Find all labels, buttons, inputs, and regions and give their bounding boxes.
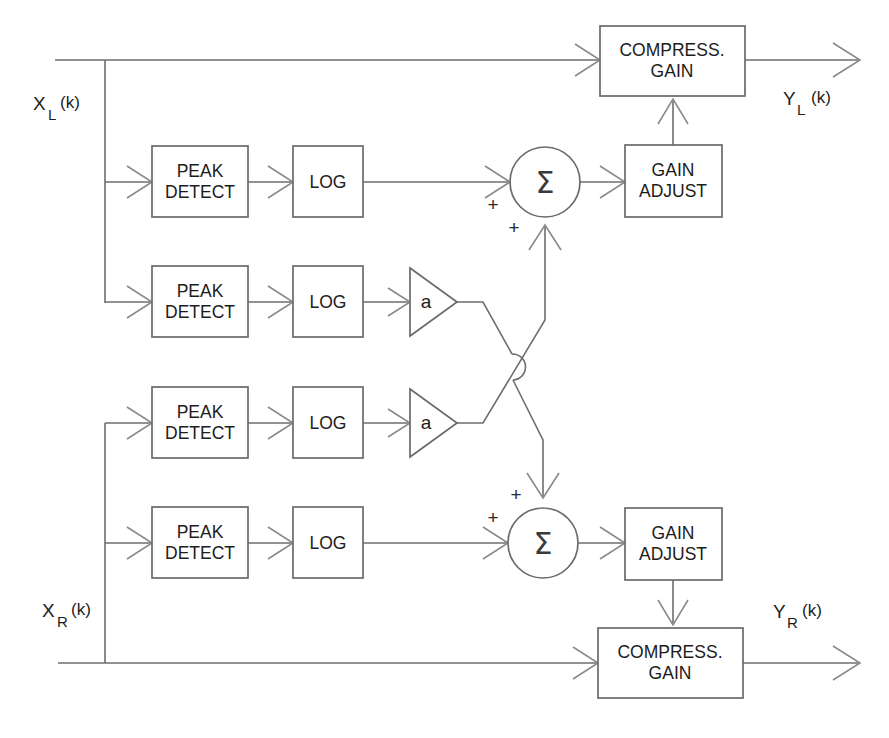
block-compress-gain-lower[interactable]: COMPRESS. GAIN xyxy=(598,628,743,698)
output-left-subscript: L xyxy=(797,101,805,118)
peak-detect-label-line2: DETECT xyxy=(165,543,235,563)
output-left-base: Y xyxy=(783,88,796,109)
block-diagram-figure: PEAK DETECT LOG PEAK DETECT LOG a PEAK D xyxy=(0,0,889,738)
gain-adjust-label-line2: ADJUST xyxy=(639,181,707,201)
block-amplifier-row3[interactable]: a xyxy=(410,389,457,457)
wire-hop-arc xyxy=(512,354,525,380)
input-right-subscript: R xyxy=(57,613,68,630)
block-log-row1[interactable]: LOG xyxy=(293,146,363,217)
sigma-symbol-left: Σ xyxy=(536,165,555,200)
peak-detect-label-line1: PEAK xyxy=(177,281,224,301)
compress-gain-label-line2: GAIN xyxy=(649,663,692,683)
compress-gain-label-line2: GAIN xyxy=(651,61,694,81)
arrowhead-layer xyxy=(127,43,860,680)
block-amplifier-row2[interactable]: a xyxy=(410,268,457,336)
peak-detect-label-line2: DETECT xyxy=(165,182,235,202)
block-gain-adjust-upper[interactable]: GAIN ADJUST xyxy=(625,145,722,217)
wire-cross-upper-a-to-lower-summer xyxy=(457,302,512,354)
output-right-arg: (k) xyxy=(802,601,822,620)
block-log-row4[interactable]: LOG xyxy=(293,507,363,578)
wire-cross-lower-a-to-upper-summer xyxy=(457,225,545,423)
log-label-3: LOG xyxy=(310,413,347,433)
amplifier-label-2: a xyxy=(421,291,432,312)
peak-detect-label-line1: PEAK xyxy=(177,161,224,181)
gain-adjust-label-line2: ADJUST xyxy=(639,544,707,564)
label-input-right: X R (k) xyxy=(42,600,91,630)
block-peak-detect-row4[interactable]: PEAK DETECT xyxy=(152,507,248,578)
peak-detect-label-line1: PEAK xyxy=(177,522,224,542)
peak-detect-label-line2: DETECT xyxy=(165,423,235,443)
amplifier-triangle-2[interactable] xyxy=(410,268,457,336)
summer-right[interactable]: Σ + + xyxy=(487,484,578,578)
stereo-compressor-diagram: PEAK DETECT LOG PEAK DETECT LOG a PEAK D xyxy=(0,0,889,738)
input-left-subscript: L xyxy=(48,106,56,123)
block-compress-gain-upper[interactable]: COMPRESS. GAIN xyxy=(600,26,745,96)
input-right-arg: (k) xyxy=(71,600,91,619)
plus-sign-right-input-b: + xyxy=(487,507,498,528)
output-right-base: Y xyxy=(773,601,786,622)
plus-sign-left-input-b: + xyxy=(508,217,519,238)
peak-detect-label-line2: DETECT xyxy=(165,302,235,322)
gain-adjust-label-line1: GAIN xyxy=(652,523,695,543)
log-label-1: LOG xyxy=(310,172,347,192)
log-label-4: LOG xyxy=(310,533,347,553)
plus-sign-left-input-a: + xyxy=(487,194,498,215)
block-peak-detect-row2[interactable]: PEAK DETECT xyxy=(152,266,248,337)
output-left-arg: (k) xyxy=(811,88,831,107)
block-gain-adjust-lower[interactable]: GAIN ADJUST xyxy=(625,508,722,580)
gain-adjust-label-line1: GAIN xyxy=(652,160,695,180)
sigma-symbol-right: Σ xyxy=(534,526,553,561)
block-log-row3[interactable]: LOG xyxy=(293,387,363,458)
input-left-arg: (k) xyxy=(60,93,80,112)
amplifier-triangle-3[interactable] xyxy=(410,389,457,457)
block-peak-detect-row1[interactable]: PEAK DETECT xyxy=(152,146,248,217)
block-log-row2[interactable]: LOG xyxy=(293,266,363,337)
summer-left[interactable]: Σ + + xyxy=(487,147,580,238)
output-right-subscript: R xyxy=(787,614,798,631)
label-input-left: X L (k) xyxy=(33,93,80,123)
label-output-left: Y L (k) xyxy=(783,88,831,118)
plus-sign-right-input-a: + xyxy=(510,484,521,505)
input-right-base: X xyxy=(42,600,55,621)
block-layer: PEAK DETECT LOG PEAK DETECT LOG a PEAK D xyxy=(152,26,745,698)
peak-detect-label-line1: PEAK xyxy=(177,402,224,422)
compress-gain-label-line1: COMPRESS. xyxy=(617,642,722,662)
log-label-2: LOG xyxy=(310,292,347,312)
amplifier-label-3: a xyxy=(421,412,432,433)
block-peak-detect-row3[interactable]: PEAK DETECT xyxy=(152,387,248,458)
compress-gain-label-line1: COMPRESS. xyxy=(619,40,724,60)
wire-cross-upper-a-to-lower-summer-cont xyxy=(513,380,543,498)
input-left-base: X xyxy=(33,93,46,114)
label-output-right: Y R (k) xyxy=(773,601,822,631)
